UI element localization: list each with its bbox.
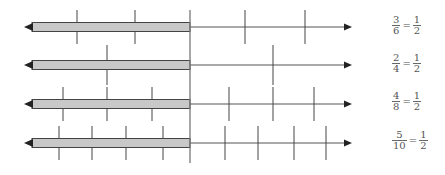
arrow-right-icon — [344, 24, 352, 31]
fraction-rhs: 12 — [413, 15, 421, 36]
fraction-lhs: 510 — [392, 130, 407, 151]
shaded-half-bar — [32, 61, 190, 70]
arrow-left-icon — [24, 23, 33, 31]
equation-row-4: 510 = 12 — [392, 130, 428, 151]
equals-sign: = — [402, 58, 410, 69]
equals-sign: = — [409, 135, 417, 146]
equation-row-2: 24 = 12 — [392, 53, 421, 74]
fraction-rhs: 12 — [413, 91, 421, 112]
fraction-lhs: 24 — [392, 53, 400, 74]
arrow-right-icon — [344, 101, 352, 108]
equals-sign: = — [402, 20, 410, 31]
shaded-half-bar — [32, 23, 190, 32]
arrow-right-icon — [344, 62, 352, 69]
arrow-left-icon — [24, 61, 33, 69]
arrow-left-icon — [24, 100, 33, 108]
fraction-number-lines-diagram: 36 = 12 24 = 12 48 = 12 510 = 12 — [0, 0, 445, 175]
equation-row-1: 36 = 12 — [392, 15, 421, 36]
number-lines-canvas — [0, 0, 445, 175]
shaded-half-bar — [32, 139, 190, 148]
fraction-lhs: 36 — [392, 15, 400, 36]
equation-row-3: 48 = 12 — [392, 91, 421, 112]
fraction-rhs: 12 — [413, 53, 421, 74]
fraction-rhs: 12 — [419, 130, 427, 151]
equals-sign: = — [402, 96, 410, 107]
fraction-lhs: 48 — [392, 91, 400, 112]
arrow-left-icon — [24, 139, 33, 147]
shaded-half-bar — [32, 100, 190, 109]
arrow-right-icon — [344, 140, 352, 147]
